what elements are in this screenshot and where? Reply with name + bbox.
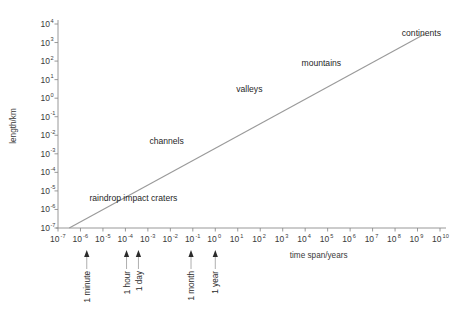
x-tick-label: 104 xyxy=(297,233,311,245)
svg-text:10: 10 xyxy=(41,204,51,214)
y-tick-label: 10-1 xyxy=(41,110,56,122)
svg-text:10: 10 xyxy=(252,234,262,244)
svg-text:10: 10 xyxy=(365,234,375,244)
svg-text:9: 9 xyxy=(420,233,423,239)
svg-text:-7: -7 xyxy=(51,222,56,228)
annotation-label: valleys xyxy=(236,84,262,94)
x-tick-label: 106 xyxy=(342,233,356,245)
y-tick-label: 10-6 xyxy=(41,203,56,215)
time-marker-arrow xyxy=(136,250,141,257)
svg-text:10: 10 xyxy=(185,234,195,244)
svg-text:10: 10 xyxy=(41,19,51,29)
x-tick-label: 10-3 xyxy=(140,233,156,245)
annotation-label: continents xyxy=(402,28,441,38)
svg-text:-6: -6 xyxy=(51,203,56,209)
svg-text:10: 10 xyxy=(41,130,51,140)
svg-text:10: 10 xyxy=(230,234,240,244)
svg-text:3: 3 xyxy=(285,233,288,239)
svg-text:-3: -3 xyxy=(51,147,56,153)
x-tick-label: 103 xyxy=(275,233,289,245)
svg-text:10: 10 xyxy=(117,234,127,244)
x-tick-label: 105 xyxy=(320,233,334,245)
svg-text:10: 10 xyxy=(41,186,51,196)
svg-text:-5: -5 xyxy=(106,233,111,239)
svg-text:4: 4 xyxy=(51,18,54,24)
svg-text:0: 0 xyxy=(218,233,221,239)
svg-text:10: 10 xyxy=(162,234,172,244)
svg-text:10: 10 xyxy=(275,234,285,244)
svg-text:-1: -1 xyxy=(51,110,56,116)
svg-text:10: 10 xyxy=(140,234,150,244)
x-tick-label: 1010 xyxy=(432,233,449,245)
annotation-label: channels xyxy=(149,136,183,146)
svg-text:-2: -2 xyxy=(173,233,178,239)
svg-text:10: 10 xyxy=(41,149,51,159)
chart-canvas: 10410310210110010-110-210-310-410-510-61… xyxy=(0,0,453,318)
svg-text:10: 10 xyxy=(41,38,51,48)
svg-text:10: 10 xyxy=(342,234,352,244)
svg-text:10: 10 xyxy=(320,234,330,244)
svg-text:6: 6 xyxy=(353,233,356,239)
svg-text:10: 10 xyxy=(41,167,51,177)
y-tick-label: 10-3 xyxy=(41,147,56,159)
y-axis-title: length/km xyxy=(9,108,18,144)
svg-text:2: 2 xyxy=(263,233,266,239)
svg-text:10: 10 xyxy=(73,234,83,244)
svg-text:8: 8 xyxy=(398,233,401,239)
x-tick-label: 10-7 xyxy=(50,233,66,245)
time-marker-label: 1 year xyxy=(211,271,220,294)
x-axis-title: time span/years xyxy=(290,251,348,260)
time-marker-arrow xyxy=(213,250,218,257)
time-marker-label: 1 month xyxy=(187,271,196,301)
annotation-label: raindrop impact craters xyxy=(89,193,177,203)
time-marker-label: 1 minute xyxy=(83,271,92,303)
svg-text:10: 10 xyxy=(207,234,217,244)
x-tick-label: 107 xyxy=(365,233,379,245)
y-tick-label: 103 xyxy=(41,36,54,48)
x-tick-label: 109 xyxy=(410,233,424,245)
svg-text:10: 10 xyxy=(41,93,51,103)
svg-text:3: 3 xyxy=(51,36,54,42)
svg-text:10: 10 xyxy=(95,234,105,244)
svg-text:-4: -4 xyxy=(128,233,133,239)
x-tick-label: 10-6 xyxy=(73,233,89,245)
svg-text:10: 10 xyxy=(41,223,51,233)
svg-text:10: 10 xyxy=(432,234,442,244)
svg-text:0: 0 xyxy=(51,92,54,98)
time-marker-label: 1 day xyxy=(135,270,144,291)
y-tick-label: 100 xyxy=(41,92,54,104)
svg-text:-5: -5 xyxy=(51,184,56,190)
y-tick-label: 10-2 xyxy=(41,129,56,141)
time-marker-arrow xyxy=(188,250,193,257)
svg-text:10: 10 xyxy=(443,233,449,239)
svg-text:-4: -4 xyxy=(51,166,56,172)
svg-text:-1: -1 xyxy=(195,233,200,239)
x-tick-label: 108 xyxy=(387,233,401,245)
y-tick-label: 104 xyxy=(41,18,54,30)
svg-text:10: 10 xyxy=(297,234,307,244)
y-tick-label: 10-4 xyxy=(41,166,56,178)
x-tick-label: 100 xyxy=(207,233,221,245)
y-tick-label: 10-7 xyxy=(41,222,56,234)
svg-text:-2: -2 xyxy=(51,129,56,135)
x-tick-label: 102 xyxy=(252,233,266,245)
svg-text:10: 10 xyxy=(41,75,51,85)
time-marker-arrow xyxy=(84,250,89,257)
svg-text:-3: -3 xyxy=(150,233,155,239)
log-log-chart: 10410310210110010-110-210-310-410-510-61… xyxy=(0,0,453,318)
svg-text:10: 10 xyxy=(41,56,51,66)
svg-text:2: 2 xyxy=(51,55,54,61)
x-tick-label: 10-1 xyxy=(185,233,201,245)
svg-text:10: 10 xyxy=(387,234,397,244)
time-marker-arrow xyxy=(124,250,129,257)
y-tick-label: 101 xyxy=(41,73,54,85)
svg-text:10: 10 xyxy=(410,234,420,244)
svg-text:1: 1 xyxy=(240,233,243,239)
x-tick-label: 101 xyxy=(230,233,244,245)
svg-text:7: 7 xyxy=(375,233,378,239)
svg-text:-6: -6 xyxy=(83,233,88,239)
svg-text:1: 1 xyxy=(51,73,54,79)
time-marker-label: 1 hour xyxy=(123,271,132,294)
svg-text:4: 4 xyxy=(308,233,311,239)
svg-text:10: 10 xyxy=(41,112,51,122)
